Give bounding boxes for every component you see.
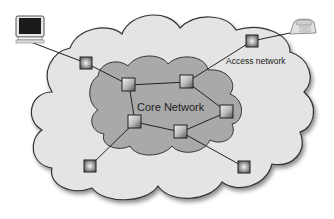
router-node-access-nw — [80, 57, 92, 69]
router-node-core-b — [180, 75, 193, 88]
router-node-core-a — [122, 78, 135, 91]
network-diagram: Core Network Access network — [0, 0, 334, 219]
router-node-access-sw — [84, 160, 96, 172]
router-node-core-d — [174, 125, 187, 138]
core-network-label: Core Network — [137, 101, 205, 113]
router-node-core-e — [128, 115, 141, 128]
router-node-access-se — [238, 161, 250, 173]
computer-icon — [16, 16, 44, 43]
access-network-label: Access network — [226, 56, 286, 66]
router-node-access-ne — [246, 35, 258, 47]
router-node-core-c — [220, 105, 233, 118]
telephone-icon — [290, 19, 316, 34]
